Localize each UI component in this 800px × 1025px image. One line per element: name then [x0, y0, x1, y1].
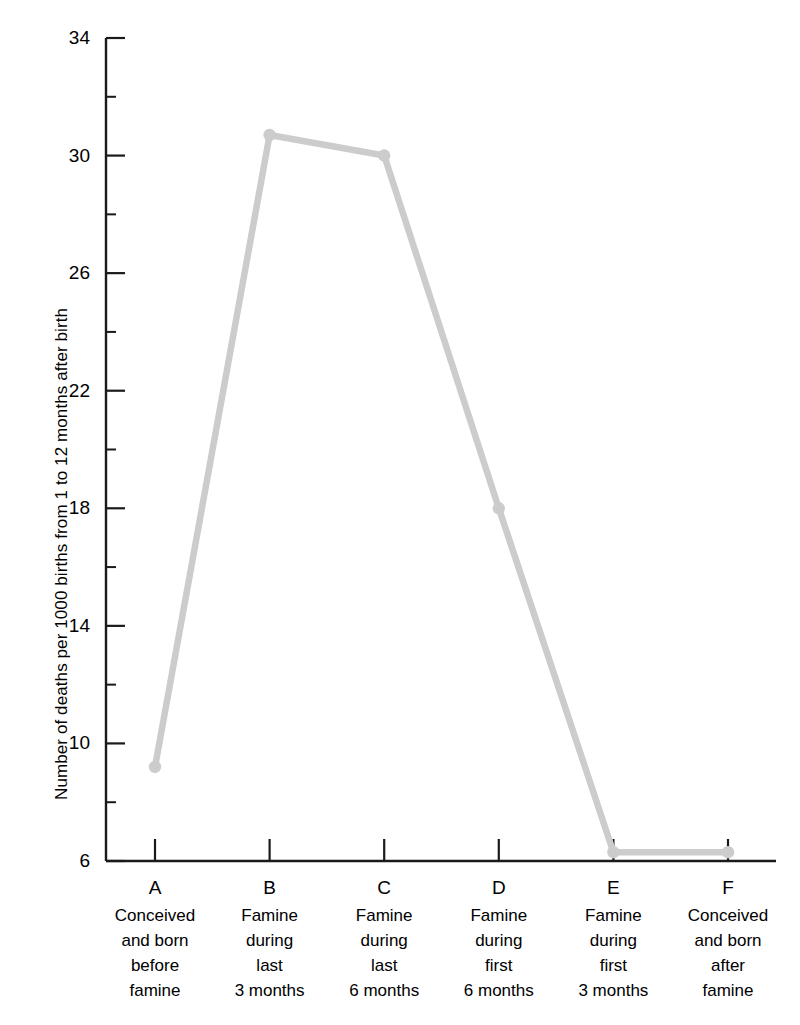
category-label-line: 6 months	[321, 978, 447, 1003]
category-label-line: Famine	[436, 903, 562, 928]
data-point-marker[interactable]	[378, 149, 390, 161]
y-axis-tick-label: 22	[48, 380, 90, 402]
category-key: E	[550, 875, 676, 900]
category-key: B	[207, 875, 333, 900]
category-label-line: 3 months	[207, 978, 333, 1003]
category-label-line: Conceived	[92, 903, 218, 928]
y-axis-tick-label: 30	[48, 145, 90, 167]
data-point-marker[interactable]	[607, 846, 619, 858]
chart-page: Number of deaths per 1000 births from 1 …	[0, 0, 800, 1025]
category-label-line: and born	[665, 928, 791, 953]
category-key: D	[436, 875, 562, 900]
data-series	[149, 129, 734, 859]
category-label-line: after	[665, 953, 791, 978]
y-axis-tick-label: 18	[48, 497, 90, 519]
y-axis-tick-label: 34	[48, 27, 90, 49]
data-point-marker[interactable]	[263, 129, 275, 141]
category-label-line: Famine	[321, 903, 447, 928]
x-axis-category-a: AConceivedand bornbeforefamine	[92, 875, 218, 1003]
y-axis-tick-label: 6	[48, 850, 90, 872]
data-point-marker[interactable]	[493, 502, 505, 514]
category-label-line: first	[550, 953, 676, 978]
category-label-line: famine	[92, 978, 218, 1003]
x-axis-category-b: BFamineduringlast3 months	[207, 875, 333, 1003]
y-axis-tick-label: 10	[48, 732, 90, 754]
category-label-line: Famine	[550, 903, 676, 928]
category-key: F	[665, 875, 791, 900]
data-point-marker[interactable]	[722, 846, 734, 858]
category-label-line: 3 months	[550, 978, 676, 1003]
y-axis-tick-label: 14	[48, 615, 90, 637]
axes	[106, 38, 776, 861]
category-label-line: during	[207, 928, 333, 953]
data-point-marker[interactable]	[149, 761, 161, 773]
x-axis-category-e: EFamineduringfirst3 months	[550, 875, 676, 1003]
series-line	[155, 135, 728, 852]
category-label-line: Conceived	[665, 903, 791, 928]
line-chart-plot	[0, 0, 800, 1025]
x-axis-category-c: CFamineduringlast6 months	[321, 875, 447, 1003]
x-axis-category-d: DFamineduringfirst6 months	[436, 875, 562, 1003]
category-key: C	[321, 875, 447, 900]
category-label-line: during	[550, 928, 676, 953]
category-label-line: famine	[665, 978, 791, 1003]
category-label-line: last	[321, 953, 447, 978]
category-key: A	[92, 875, 218, 900]
category-label-line: first	[436, 953, 562, 978]
category-label-line: and born	[92, 928, 218, 953]
category-label-line: Famine	[207, 903, 333, 928]
category-label-line: before	[92, 953, 218, 978]
x-axis-category-f: FConceivedand bornafterfamine	[665, 875, 791, 1003]
category-label-line: during	[436, 928, 562, 953]
category-label-line: last	[207, 953, 333, 978]
y-axis-tick-label: 26	[48, 262, 90, 284]
category-label-line: 6 months	[436, 978, 562, 1003]
category-label-line: during	[321, 928, 447, 953]
